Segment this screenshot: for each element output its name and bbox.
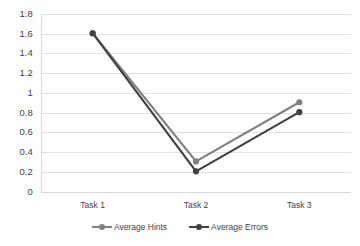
- data-point-marker: [90, 30, 96, 36]
- legend-marker-average-hints: [92, 223, 112, 232]
- y-axis-tick-label: 0.2: [5, 167, 33, 177]
- series-line: [93, 33, 300, 161]
- legend-item-average-hints[interactable]: Average Hints: [92, 222, 167, 232]
- y-axis-tick-label: 0.6: [5, 127, 33, 137]
- y-axis-tick-label: 1: [5, 88, 33, 98]
- legend-marker-average-errors: [189, 223, 209, 232]
- data-point-marker: [193, 158, 199, 164]
- line-chart: 00.20.40.60.811.21.41.61.8 Task 1Task 2T…: [0, 0, 360, 246]
- legend-label-average-hints: Average Hints: [114, 222, 167, 232]
- y-axis-tick-label: 1.4: [5, 48, 33, 58]
- x-axis-tick-label: Task 2: [166, 200, 226, 210]
- y-axis-tick-label: 0.8: [5, 108, 33, 118]
- x-axis-tick-label: Task 1: [63, 200, 123, 210]
- data-point-marker: [296, 109, 302, 115]
- y-axis-tick-label: 0.4: [5, 147, 33, 157]
- gridlines: [41, 15, 351, 193]
- data-point-marker: [193, 168, 199, 174]
- data-point-marker: [296, 99, 302, 105]
- legend-label-average-errors: Average Errors: [211, 222, 268, 232]
- y-axis-tick-label: 1.2: [5, 68, 33, 78]
- x-axis-tick-label: Task 3: [269, 200, 329, 210]
- y-axis-tick-label: 1.8: [5, 9, 33, 19]
- chart-legend: Average Hints Average Errors: [0, 222, 360, 232]
- y-axis-tick-label: 0: [5, 187, 33, 197]
- legend-item-average-errors[interactable]: Average Errors: [189, 222, 268, 232]
- y-axis-tick-label: 1.6: [5, 29, 33, 39]
